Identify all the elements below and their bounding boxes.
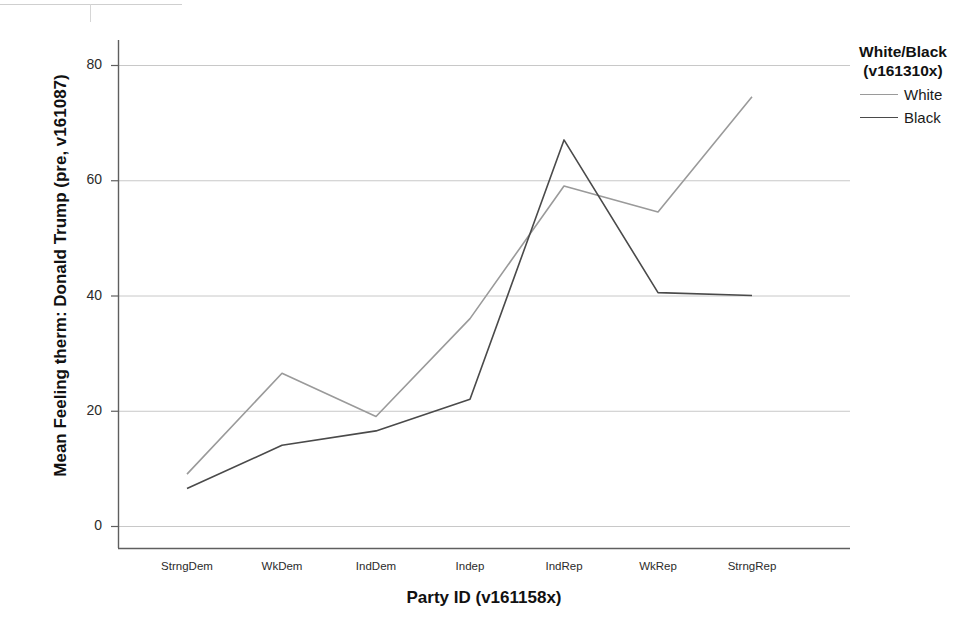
gridlines-group [118,66,850,527]
y-tick-label: 60 [62,171,102,187]
chart-page: Mean Feeling therm: Donald Trump (pre, v… [0,0,980,642]
series-lines-group [187,97,752,489]
legend-label-white: White [904,86,942,103]
y-axis-title: Mean Feeling therm: Donald Trump (pre, v… [50,61,71,491]
series-line-white [187,97,752,474]
y-tick-label: 40 [62,287,102,303]
y-tick-label: 80 [62,56,102,72]
x-tick-label-inddem: IndDem [331,560,421,572]
legend: White/Black (v161310x) WhiteBlack [838,42,980,126]
legend-label-black: Black [904,109,941,126]
legend-swatch-white [860,94,898,95]
axis-lines-group [118,40,850,549]
legend-title: White/Black (v161310x) [838,42,968,80]
legend-title-line1: White/Black [859,43,947,60]
x-tick-label-strngrep: StrngRep [707,560,797,572]
x-tick-label-wkrep: WkRep [613,560,703,572]
x-tick-label-indrep: IndRep [519,560,609,572]
x-tick-label-wkdem: WkDem [237,560,327,572]
legend-entries: WhiteBlack [838,86,980,126]
x-tick-label-strngdem: StrngDem [142,560,232,572]
legend-swatch-black [860,117,898,118]
legend-title-line2: (v161310x) [863,62,942,79]
y-tick-label: 20 [62,402,102,418]
legend-item-white[interactable]: White [838,86,980,103]
y-tick-label: 0 [62,517,102,533]
x-tick-label-indep: Indep [425,560,515,572]
y-tick-marks-group [111,66,118,527]
x-axis-title: Party ID (v161158x) [118,588,850,608]
legend-item-black[interactable]: Black [838,109,980,126]
line-chart-plot [0,0,980,642]
series-line-black [187,140,752,489]
